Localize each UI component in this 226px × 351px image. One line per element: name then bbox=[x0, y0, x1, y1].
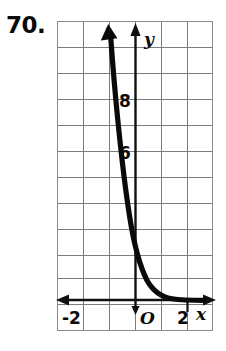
coordinate-plane-graph: y x 8 6 -2 2 O bbox=[0, 0, 226, 351]
y-axis bbox=[130, 23, 140, 315]
curve-arrow-up bbox=[101, 24, 118, 41]
x-axis-label: x bbox=[195, 304, 207, 324]
y-axis-arrow-down bbox=[131, 306, 139, 315]
y-axis-label: y bbox=[143, 29, 155, 49]
origin-label: O bbox=[140, 308, 155, 328]
y-axis-arrow-up bbox=[130, 23, 140, 36]
exercise-figure: 70. bbox=[0, 0, 226, 351]
exponential-curve bbox=[101, 24, 204, 300]
x-tick-label-neg2: -2 bbox=[62, 308, 81, 328]
y-tick-label-8: 8 bbox=[119, 91, 131, 111]
y-tick-label-6: 6 bbox=[119, 143, 131, 163]
x-tick-label-2: 2 bbox=[177, 308, 189, 328]
